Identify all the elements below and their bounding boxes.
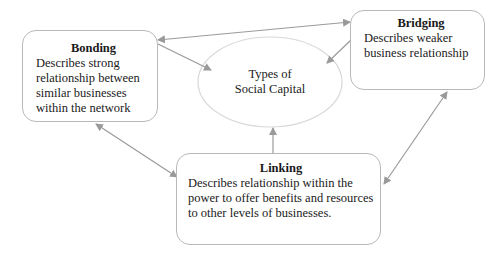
bridging-description: Describes weaker business relationship xyxy=(364,31,478,61)
node-linking: Linking Describes relationship within th… xyxy=(176,153,381,245)
edge-bridging-linking xyxy=(384,92,447,184)
bonding-title: Bonding xyxy=(36,41,151,56)
center-node-types-of-social-capital: Types of Social Capital xyxy=(198,37,342,127)
bonding-description: Describes strong relationship between si… xyxy=(36,56,151,116)
node-bridging: Bridging Describes weaker business relat… xyxy=(350,10,485,90)
center-label-line2: Social Capital xyxy=(235,82,305,97)
linking-description: Describes relationship within the power … xyxy=(188,176,374,221)
edge-bonding-linking xyxy=(96,124,177,177)
linking-title: Linking xyxy=(188,161,374,176)
center-label-line1: Types of xyxy=(248,67,291,82)
node-bonding: Bonding Describes strong relationship be… xyxy=(22,30,158,122)
bridging-title: Bridging xyxy=(364,16,478,31)
